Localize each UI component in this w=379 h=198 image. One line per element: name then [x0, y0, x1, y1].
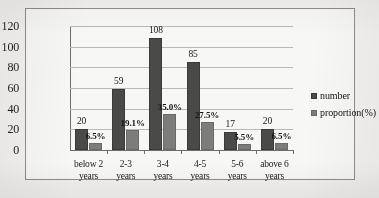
bar-number [149, 38, 162, 150]
bar-proportion [201, 122, 214, 150]
x-tick-mark [144, 150, 145, 154]
data-label-number: 20 [71, 117, 92, 127]
plot-area: 020406080100120 206.5%5919.1%10835.0%852… [70, 26, 293, 150]
legend-swatch-number-icon [311, 93, 317, 99]
x-category-label: 5-6years [219, 159, 256, 182]
chart-legend: numberproportion(%) [311, 91, 379, 125]
legend-label: proportion(%) [320, 108, 376, 118]
bar-proportion [238, 144, 251, 150]
bar-proportion [126, 130, 139, 150]
bar-group: 5919.1% [107, 26, 144, 150]
x-category-label: 3-4years [144, 159, 181, 182]
y-tick-label-120: 120 [0, 20, 19, 32]
legend-item: proportion(%) [311, 108, 379, 118]
bar-group: 206.5% [256, 26, 293, 150]
y-tick-label-20: 20 [0, 123, 19, 135]
bar-group: 175.5% [219, 26, 256, 150]
bar-proportion [89, 143, 102, 150]
chart-frame: 020406080100120 206.5%5919.1%10835.0%852… [25, 8, 355, 180]
x-tick-mark [107, 150, 108, 154]
data-label-proportion: 6.5% [266, 132, 297, 141]
x-category-label: below 2years [70, 159, 107, 182]
y-tick-label-60: 60 [0, 82, 19, 94]
x-tick-mark [219, 150, 220, 154]
bar-proportion [275, 143, 288, 150]
x-category-label: 2-3years [107, 159, 144, 182]
y-tick-label-100: 100 [0, 41, 19, 53]
x-tick-mark [293, 150, 294, 154]
bar-group: 10835.0% [144, 26, 181, 150]
data-label-number: 85 [183, 50, 204, 60]
data-label-number: 59 [108, 77, 129, 87]
y-tick-label-40: 40 [0, 103, 19, 115]
x-category-label: above 6years [256, 159, 293, 182]
data-label-number: 17 [220, 120, 241, 130]
x-tick-mark [256, 150, 257, 154]
y-tick-label-0: 0 [0, 144, 19, 156]
data-label-number: 108 [145, 26, 166, 36]
x-axis-category-labels: below 2years2-3years3-4years4-5years5-6y… [70, 156, 293, 186]
bar-number [187, 62, 200, 150]
bar-group: 206.5% [70, 26, 107, 150]
x-category-label: 4-5years [182, 159, 219, 182]
legend-item: number [311, 91, 379, 101]
legend-label: number [320, 91, 350, 101]
y-tick-label-80: 80 [0, 61, 19, 73]
legend-swatch-proportion-icon [311, 110, 317, 116]
bar-group: 8527.5% [182, 26, 219, 150]
x-tick-mark [181, 150, 182, 154]
data-label-number: 20 [257, 117, 278, 127]
bar-proportion [163, 114, 176, 150]
